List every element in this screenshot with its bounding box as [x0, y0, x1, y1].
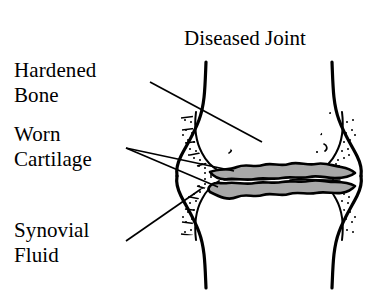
worn-cartilage-band — [209, 163, 356, 199]
label-synovial-fluid: Synovial Fluid — [14, 218, 89, 268]
upper-bone — [177, 62, 362, 176]
diagram-canvas: Diseased Joint Hardened Bone Worn Cartil… — [0, 0, 367, 297]
label-worn-cartilage: Worn Cartilage — [14, 122, 92, 172]
upper-trabecular-speckle — [229, 94, 331, 153]
label-hardened-bone: Hardened Bone — [14, 58, 96, 108]
page-title: Diseased Joint — [184, 26, 306, 50]
leader-worn-cartilage-upper — [126, 148, 234, 171]
lower-trabecular-speckle — [224, 199, 321, 254]
